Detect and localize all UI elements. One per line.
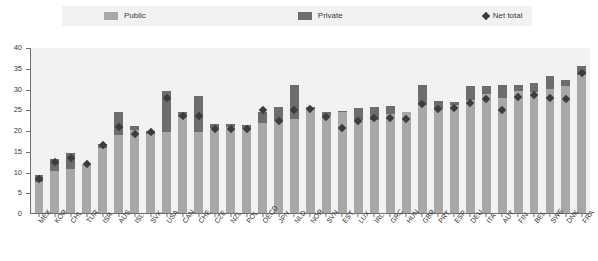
y-axis-tick-label: 25: [14, 107, 22, 115]
x-label-slot: DNK: [558, 218, 574, 261]
x-label-slot: MEX: [30, 218, 46, 261]
bar-slot[interactable]: [207, 48, 223, 213]
stacked-bar[interactable]: [162, 91, 171, 213]
bar-segment-public: [274, 121, 283, 213]
stacked-bar[interactable]: [258, 112, 267, 213]
stacked-bar[interactable]: [577, 66, 586, 213]
bar-segment-public: [82, 164, 91, 214]
stacked-bar[interactable]: [530, 83, 539, 213]
x-label-slot: DEU: [462, 218, 478, 261]
stacked-bar[interactable]: [98, 144, 107, 213]
bar-slot[interactable]: [462, 48, 478, 213]
bar-segment-public: [258, 123, 267, 213]
bar-slot[interactable]: [430, 48, 446, 213]
x-label-slot: HUN: [398, 218, 414, 261]
bar-segment-private: [498, 85, 507, 97]
stacked-bar[interactable]: [306, 107, 315, 213]
bar-segment-public: [418, 105, 427, 213]
stacked-bar[interactable]: [514, 85, 523, 213]
bar-slot[interactable]: [526, 48, 542, 213]
stacked-bar[interactable]: [226, 124, 235, 213]
bar-slot[interactable]: [159, 48, 175, 213]
stacked-bar[interactable]: [482, 86, 491, 213]
bar-slot[interactable]: [558, 48, 574, 213]
stacked-bar[interactable]: [50, 159, 59, 213]
stacked-bar[interactable]: [322, 112, 331, 213]
bar-segment-public: [450, 105, 459, 213]
stacked-bar[interactable]: [82, 164, 91, 214]
legend-label-private: Private: [318, 12, 343, 20]
stacked-bar[interactable]: [498, 85, 507, 213]
bar-slot[interactable]: [95, 48, 111, 213]
bar-slot[interactable]: [478, 48, 494, 213]
stacked-bar[interactable]: [146, 131, 155, 213]
square-swatch-icon: [104, 12, 118, 20]
bar-slot[interactable]: [494, 48, 510, 213]
stacked-bar[interactable]: [290, 85, 299, 213]
bar-slot[interactable]: [287, 48, 303, 213]
bar-slot[interactable]: [510, 48, 526, 213]
square-swatch-icon: [298, 12, 312, 20]
bar-slot[interactable]: [223, 48, 239, 213]
bar-slot[interactable]: [302, 48, 318, 213]
bar-slot[interactable]: [366, 48, 382, 213]
x-label-slot: ISR: [94, 218, 110, 261]
stacked-bar[interactable]: [450, 102, 459, 213]
y-axis-tick-label: 5: [18, 190, 22, 198]
y-axis: 0510152025303540: [0, 44, 26, 214]
x-label-slot: BEL: [526, 218, 542, 261]
stacked-bar[interactable]: [434, 101, 443, 213]
bar-slot[interactable]: [143, 48, 159, 213]
legend-label-public: Public: [124, 12, 146, 20]
bar-segment-public: [50, 171, 59, 213]
x-label-slot: PRT: [430, 218, 446, 261]
bar-slot[interactable]: [414, 48, 430, 213]
x-label-slot: ISL: [126, 218, 142, 261]
x-label-slot: SVN: [318, 218, 334, 261]
x-label-slot: NOR: [302, 218, 318, 261]
bar-slot[interactable]: [382, 48, 398, 213]
chart-root: Public Private Net total 051015202530354…: [0, 0, 598, 261]
x-label-slot: ESP: [446, 218, 462, 261]
bar-segment-public: [561, 86, 570, 213]
bar-slot[interactable]: [63, 48, 79, 213]
x-label-slot: ITA: [478, 218, 494, 261]
bar-slot[interactable]: [318, 48, 334, 213]
x-label-slot: CZE: [206, 218, 222, 261]
bar-slot[interactable]: [334, 48, 350, 213]
x-label-slot: CHE: [190, 218, 206, 261]
stacked-bar[interactable]: [386, 106, 395, 213]
bar-segment-public: [306, 109, 315, 213]
stacked-bar[interactable]: [178, 112, 187, 213]
bar-segment-private: [386, 106, 395, 113]
bar-segment-public: [434, 109, 443, 213]
bar-slot[interactable]: [542, 48, 558, 213]
bar-slot[interactable]: [271, 48, 287, 213]
bar-segment-public: [66, 169, 75, 213]
bar-slot[interactable]: [31, 48, 47, 213]
bar-slot[interactable]: [191, 48, 207, 213]
x-label-slot: NZL: [222, 218, 238, 261]
bar-slot[interactable]: [175, 48, 191, 213]
bar-slot[interactable]: [255, 48, 271, 213]
stacked-bar[interactable]: [402, 112, 411, 213]
bar-segment-public: [98, 148, 107, 213]
bar-slot[interactable]: [79, 48, 95, 213]
bar-slot[interactable]: [127, 48, 143, 213]
bar-slot[interactable]: [350, 48, 366, 213]
y-axis-tick-label: 20: [14, 127, 22, 135]
bar-slot[interactable]: [574, 48, 590, 213]
chart-legend: Public Private Net total: [62, 6, 532, 26]
bar-slot[interactable]: [111, 48, 127, 213]
bar-slot[interactable]: [446, 48, 462, 213]
bar-group: [31, 48, 590, 213]
stacked-bar[interactable]: [210, 124, 219, 213]
x-label-slot: JPN: [270, 218, 286, 261]
bar-slot[interactable]: [47, 48, 63, 213]
stacked-bar[interactable]: [130, 126, 139, 213]
bar-slot[interactable]: [239, 48, 255, 213]
stacked-bar[interactable]: [242, 125, 251, 213]
bar-slot[interactable]: [398, 48, 414, 213]
stacked-bar[interactable]: [370, 107, 379, 213]
x-label-slot: POL: [238, 218, 254, 261]
